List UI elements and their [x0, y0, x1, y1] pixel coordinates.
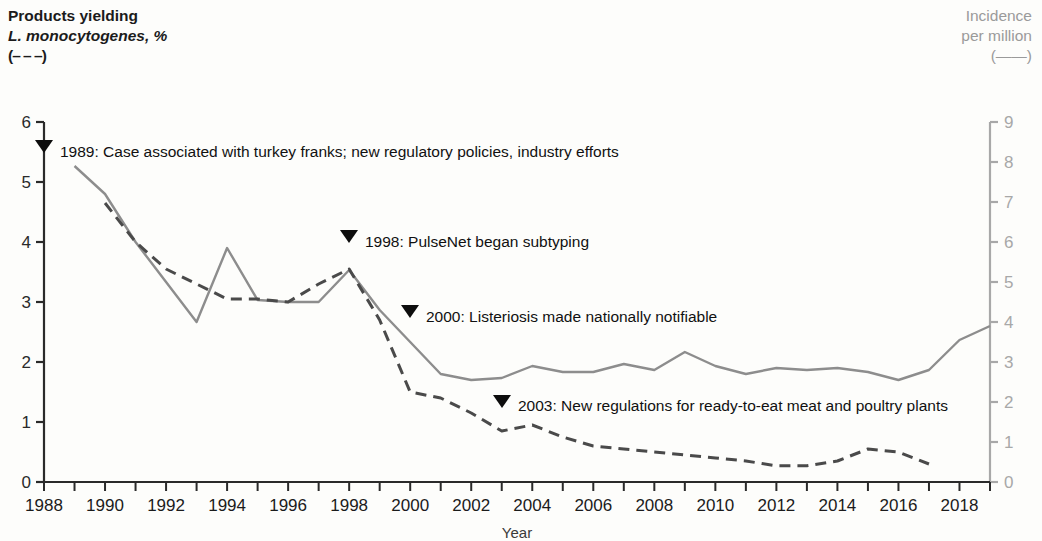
y-axis-right-tick-label: 4	[1004, 313, 1013, 332]
annotations-group: 1989: Case associated with turkey franks…	[35, 140, 948, 414]
y-axis-left-tick-label: 2	[22, 353, 31, 372]
y-axis-left-tick-label: 5	[22, 173, 31, 192]
x-axis-tick-label: 2014	[819, 496, 857, 515]
x-axis-tick-label: 1988	[25, 496, 63, 515]
x-axis-tick-label: 2008	[635, 496, 673, 515]
y-axis-right-tick-label: 7	[1004, 193, 1013, 212]
y-axis-right-tick-label: 8	[1004, 153, 1013, 172]
x-axis-tick-label: 2006	[574, 496, 612, 515]
x-axis-tick-label: 2016	[880, 496, 918, 515]
y-axis-right-tick-label: 0	[1004, 473, 1013, 492]
y-axis-right-tick-label: 5	[1004, 273, 1013, 292]
x-axis-tick-label: 1998	[330, 496, 368, 515]
annotation-label: 1998: PulseNet began subtyping	[365, 233, 589, 250]
x-axis-tick-label: 2010	[696, 496, 734, 515]
series-line-incidence-solid	[75, 166, 990, 380]
annotation-label: 2003: New regulations for ready-to-eat m…	[518, 397, 948, 414]
chart-figure: Products yielding L. monocytogenes, % (–…	[0, 0, 1042, 541]
y-axis-left-tick-label: 1	[22, 413, 31, 432]
x-axis-tick-label: 2000	[391, 496, 429, 515]
y-axis-right-tick-label: 9	[1004, 113, 1013, 132]
y-axis-left-tick-label: 6	[22, 113, 31, 132]
y-axis-left-tick-label: 4	[22, 233, 31, 252]
x-axis-title: Year	[502, 524, 532, 541]
annotation-marker-triangle-down-icon	[401, 305, 419, 318]
x-axis-tick-label: 2018	[941, 496, 979, 515]
y-axis-left-tick-label: 0	[22, 473, 31, 492]
y-axis-right-tick-label: 3	[1004, 353, 1013, 372]
annotation-marker-triangle-down-icon	[340, 230, 358, 243]
annotation-marker-triangle-down-icon	[35, 140, 53, 153]
chart-plot-area: 01234560123456789 1989: Case associated …	[0, 0, 1042, 541]
x-axis-tick-label: 1990	[86, 496, 124, 515]
annotation-label: 1989: Case associated with turkey franks…	[60, 143, 619, 160]
x-axis-tick-label: 2002	[452, 496, 490, 515]
x-axis-group: 1988199019921994199619982000200220042006…	[25, 482, 990, 541]
x-axis-tick-label: 2004	[513, 496, 551, 515]
x-axis-tick-label: 1992	[147, 496, 185, 515]
y-axis-right-tick-label: 1	[1004, 433, 1013, 452]
y-axis-right-tick-label: 2	[1004, 393, 1013, 412]
annotation-label: 2000: Listeriosis made nationally notifi…	[426, 308, 717, 325]
annotation-marker-triangle-down-icon	[493, 395, 511, 408]
x-axis-tick-label: 1994	[208, 496, 246, 515]
axes-group: 01234560123456789	[22, 113, 1014, 492]
y-axis-right-tick-label: 6	[1004, 233, 1013, 252]
y-axis-left-tick-label: 3	[22, 293, 31, 312]
x-axis-tick-label: 2012	[757, 496, 795, 515]
x-axis-tick-label: 1996	[269, 496, 307, 515]
